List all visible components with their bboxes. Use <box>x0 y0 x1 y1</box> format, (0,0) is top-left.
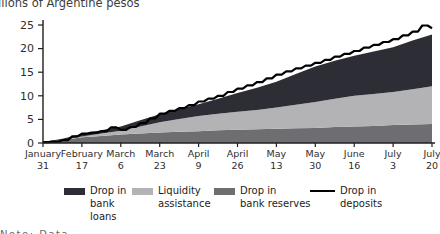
x-tick-label-month: April <box>227 148 249 159</box>
legend-label: Liquidity assistance <box>158 184 220 210</box>
legend-label: Drop in deposits <box>340 184 400 210</box>
x-tick-label-month: February <box>61 148 103 159</box>
y-tick-label: 20 <box>20 42 34 55</box>
x-tick-label-day: 23 <box>154 160 166 171</box>
x-tick-label-day: 20 <box>426 160 438 171</box>
legend-item-bank-reserves: Drop in bank reserves <box>214 184 324 210</box>
legend-item-bank-loans: Drop in bank loans <box>64 184 142 223</box>
clipped-footnote: Note: Data <box>0 229 180 234</box>
x-tick-label-day: 26 <box>231 160 243 171</box>
footnote-text: Note: Data <box>0 229 180 234</box>
x-tick-label-month: July <box>384 148 402 159</box>
x-tick-label-day: 16 <box>348 160 360 171</box>
y-tick-label: 5 <box>27 113 34 126</box>
x-tick-label-day: 3 <box>390 160 396 171</box>
bank-reserves-swatch-icon <box>214 188 235 195</box>
x-tick-label-month: January <box>24 148 61 159</box>
x-tick-label-month: May <box>267 148 287 159</box>
x-tick-label-month: July <box>422 148 440 159</box>
x-tick-label-day: 9 <box>196 160 202 171</box>
stacked-area-chart: 0510152025January31February17March6March… <box>0 0 440 180</box>
x-tick-label-day: 13 <box>270 160 282 171</box>
legend-item-deposits: Drop in deposits <box>310 184 400 210</box>
deposits-line-swatch-icon <box>310 190 335 193</box>
x-tick-label-day: 17 <box>76 160 88 171</box>
x-tick-label-day: 6 <box>118 160 124 171</box>
x-tick-label-month: May <box>305 148 325 159</box>
x-tick-label-month: June <box>343 148 365 159</box>
x-tick-label-day: 31 <box>37 160 49 171</box>
chart-area: 0510152025January31February17March6March… <box>0 0 440 180</box>
y-tick-label: 25 <box>20 19 34 32</box>
x-tick-label-month: April <box>188 148 210 159</box>
legend: Drop in bank loans Liquidity assistance … <box>0 184 440 228</box>
y-tick-label: 15 <box>20 66 34 79</box>
x-tick-label-month: March <box>106 148 135 159</box>
x-tick-label-day: 30 <box>309 160 321 171</box>
bank-loans-swatch-icon <box>64 188 85 195</box>
liquidity-swatch-icon <box>132 188 153 195</box>
x-tick-label-month: March <box>145 148 174 159</box>
chart-figure: Billions of Argentine pesos 0510152025Ja… <box>0 0 440 234</box>
y-tick-label: 10 <box>20 90 34 103</box>
legend-item-liquidity-assistance: Liquidity assistance <box>132 184 220 210</box>
